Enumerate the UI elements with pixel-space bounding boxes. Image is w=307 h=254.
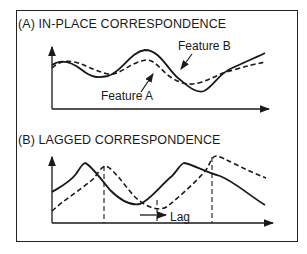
feature-b-pointer [181, 54, 192, 69]
panel-b-solid-curve [52, 163, 265, 205]
panel-a-axes [52, 47, 269, 109]
feature-b-curve [52, 50, 265, 92]
diagram-graphics [0, 0, 307, 254]
panel-b-axes [52, 157, 273, 223]
feature-a-pointer [141, 74, 153, 92]
